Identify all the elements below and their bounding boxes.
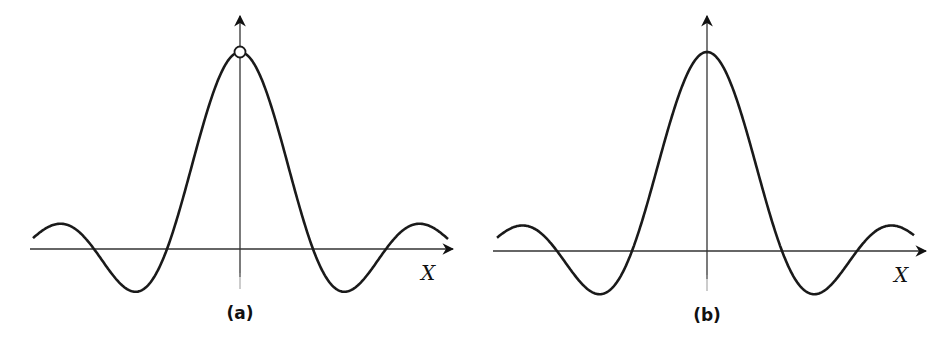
open-circle-discontinuity [235,47,246,58]
panel-caption: (a) [226,303,253,323]
x-axis-label: X [892,263,909,287]
panel-caption: (b) [693,305,721,325]
panel-a: X (a) [30,16,453,323]
panel-b: X (b) [493,16,926,325]
sinc-curve [497,52,914,294]
x-axis-label: X [419,261,436,285]
figure-canvas: X (a) X (b) [0,0,942,342]
